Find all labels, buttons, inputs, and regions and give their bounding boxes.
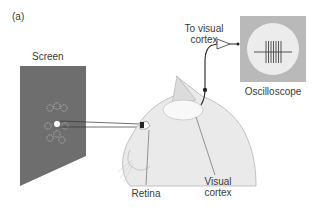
cat-head	[118, 76, 256, 186]
visual-cortex-line1: Visual	[196, 176, 240, 187]
to-visual-cortex-line1: To visual	[176, 23, 232, 34]
panel-label: (a)	[12, 11, 24, 22]
stimulus-spot	[54, 121, 60, 127]
retina-label: Retina	[124, 188, 168, 199]
visual-cortex-line2: cortex	[196, 187, 240, 198]
to-visual-cortex-label: To visual cortex	[176, 23, 232, 45]
screen	[20, 66, 86, 186]
visual-cortex-label: Visual cortex	[196, 176, 240, 198]
oscilloscope-label: Oscilloscope	[240, 86, 306, 97]
experiment-diagram	[0, 0, 322, 212]
electrode-wire	[201, 44, 217, 105]
oscilloscope	[240, 16, 306, 82]
screen-label: Screen	[32, 51, 64, 62]
to-visual-cortex-line2: cortex	[176, 34, 232, 45]
